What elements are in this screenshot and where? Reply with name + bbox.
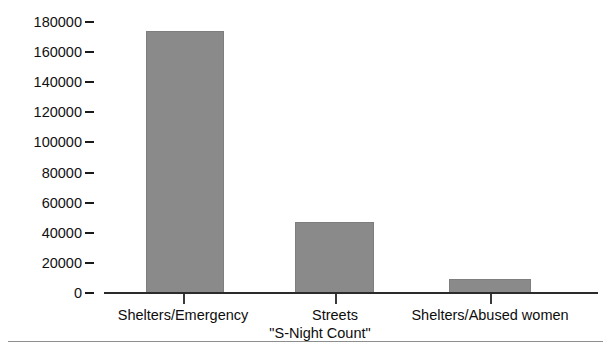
x-tick-mark-streets [335,294,337,304]
y-tick-label: 40000 [42,226,82,240]
x-axis-line [104,292,598,294]
y-tick-mark-icon [85,141,94,143]
y-tick-label: 120000 [34,105,82,119]
x-tick-mark-shelters-emergency [183,294,185,304]
y-tick-mark-icon [85,81,94,83]
y-tick-mark-icon [85,262,94,264]
y-tick-label: 160000 [34,45,82,59]
x-axis-title: "S-Night Count" [269,325,370,341]
bar-chart: 180000 160000 140000 120000 100000 80000 [0,0,611,352]
y-tick-label: 60000 [42,196,82,210]
y-tick-mark-icon [85,51,94,53]
y-tick-mark-icon [85,292,94,294]
x-tick-mark-shelters-abused-women [490,294,492,304]
y-tick-label: 180000 [34,15,82,29]
y-tick-mark-icon [85,21,94,23]
bar-streets[interactable] [295,222,374,293]
y-tick-label: 100000 [34,135,82,149]
y-tick-label: 80000 [42,166,82,180]
bar-shelters-emergency[interactable] [146,31,224,294]
y-tick-label: 140000 [34,75,82,89]
x-axis-label-shelters-emergency: Shelters/Emergency [118,307,249,323]
x-axis-label-streets: Streets [312,307,358,323]
y-tick-mark-icon [85,172,94,174]
footer-divider [8,341,603,342]
y-tick-label: 0 [74,286,82,300]
y-tick-mark-icon [85,202,94,204]
x-axis-label-shelters-abused-women: Shelters/Abused women [411,307,568,323]
y-tick-label: 20000 [42,256,82,270]
y-tick-mark-icon [85,111,94,113]
y-tick-mark-icon [85,232,94,234]
bar-shelters-abused-women[interactable] [449,279,531,293]
chart-page: 180000 160000 140000 120000 100000 80000 [0,0,611,352]
